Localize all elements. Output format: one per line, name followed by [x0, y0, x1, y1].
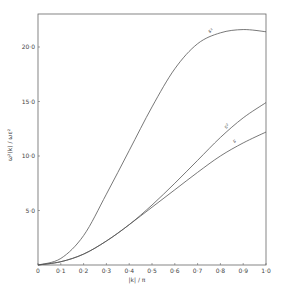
x-tick-label: 0·2 — [79, 267, 89, 274]
curve-label-s2: s² — [223, 122, 230, 130]
x-tick-label: 0·4 — [124, 267, 134, 274]
x-tick-label: 0·5 — [147, 267, 157, 274]
y-tick-label: 5·0 — [25, 207, 35, 214]
curve-s — [38, 132, 266, 265]
curve-s¹ — [38, 30, 266, 265]
y-tick-label: 10·0 — [22, 152, 36, 159]
curve-s² — [38, 103, 266, 265]
y-tick-label: 15·0 — [22, 98, 36, 105]
x-tick-label: 0·9 — [238, 267, 248, 274]
x-tick-label: 0·8 — [216, 267, 226, 274]
x-tick-label: 0·1 — [56, 267, 66, 274]
x-tick-label: 0·6 — [170, 267, 180, 274]
y-axis-label: ω²(k) / ωε² — [6, 128, 13, 161]
x-tick-label: 1·0 — [261, 267, 271, 274]
y-axis-ticks: 5·010·015·020·0 — [22, 43, 40, 214]
y-tick-label: 20·0 — [22, 43, 36, 50]
curve-label-s1: s¹ — [207, 27, 213, 34]
chart: 00·10·20·30·40·50·60·70·80·91·0 5·010·01… — [0, 0, 285, 297]
x-tick-label: 0 — [36, 267, 40, 274]
x-axis-label: |k| / π — [129, 276, 146, 284]
curve-label-s: s — [232, 137, 238, 144]
x-tick-label: 0·7 — [193, 267, 203, 274]
x-tick-label: 0·3 — [102, 267, 112, 274]
curves — [38, 30, 266, 265]
